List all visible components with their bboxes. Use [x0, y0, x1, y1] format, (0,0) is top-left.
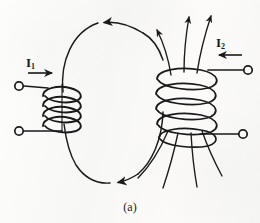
right-lower-terminal[interactable]	[239, 130, 247, 138]
flux-loop-right-lower	[138, 112, 163, 174]
left-coil-upper-lead	[24, 86, 48, 88]
flux-loop-bottom-arrow-segment	[118, 174, 138, 183]
right-upper-terminal[interactable]	[244, 66, 252, 74]
flux-loop-group	[63, 22, 163, 183]
right-coil-flux-lines-upper	[157, 16, 211, 75]
flux-line-upper-3	[197, 16, 211, 73]
current-label-i2-subscript: 2	[221, 42, 225, 51]
flux-line-lower-4	[202, 131, 222, 176]
flux-line-lower-2	[163, 133, 178, 188]
flux-line-upper-2	[184, 17, 189, 72]
right-coil[interactable]	[156, 68, 244, 147]
figure-caption: (a)	[0, 200, 260, 215]
flux-loop-left-upper	[63, 23, 98, 92]
current-label-i2: I2	[216, 36, 225, 49]
current-label-i1-subscript: 1	[31, 62, 35, 71]
flux-loop-top-arrow-segment	[104, 22, 143, 33]
left-upper-terminal[interactable]	[15, 82, 23, 90]
flux-line-upper-1	[157, 30, 171, 75]
left-coil[interactable]	[24, 84, 81, 132]
figure-container: I1 I2 (a)	[0, 0, 260, 223]
current-label-i1: I1	[26, 56, 35, 69]
flux-line-lower-3	[191, 133, 197, 187]
left-lower-terminal[interactable]	[15, 127, 23, 135]
coupled-coils-diagram	[0, 0, 260, 223]
